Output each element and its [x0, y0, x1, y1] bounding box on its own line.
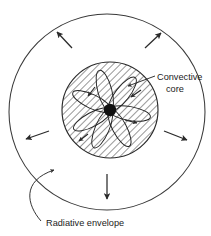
core-center-blob: [104, 104, 116, 116]
flow-arrow-left: [26, 131, 49, 139]
convective-core-label-line2: core: [166, 84, 184, 94]
flow-arrow-up-right: [145, 33, 161, 48]
stellar-structure-diagram: Convective core Radiative envelope: [0, 0, 211, 236]
flow-arrow-up-left: [57, 32, 72, 48]
convective-core-label-line1: Convective: [157, 72, 202, 82]
radiative-envelope-leader: [30, 170, 54, 221]
flow-arrow-right: [164, 131, 187, 140]
convective-core-region: [62, 62, 158, 158]
radiative-envelope-label: Radiative envelope: [46, 218, 124, 228]
diagram-canvas: Convective core Radiative envelope: [0, 0, 211, 236]
